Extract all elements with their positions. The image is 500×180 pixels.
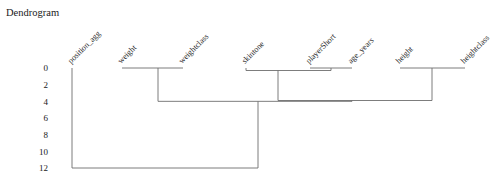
y-tick-label: 8 — [44, 130, 49, 140]
plot-background — [0, 0, 500, 180]
y-tick-label: 10 — [39, 147, 49, 157]
y-tick-label: 2 — [44, 80, 49, 90]
y-tick-label: 6 — [44, 113, 49, 123]
page-title: Dendrogram — [6, 7, 59, 18]
dendrogram-figure: Dendrogram 024681012 position_aggweightw… — [0, 0, 500, 180]
y-tick-label: 4 — [44, 97, 49, 107]
y-tick-label: 12 — [39, 163, 48, 173]
dendrogram-plot: Dendrogram 024681012 position_aggweightw… — [0, 0, 500, 180]
y-tick-label: 0 — [44, 63, 49, 73]
